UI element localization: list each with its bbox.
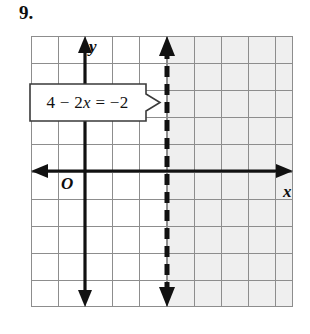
equation-callout: 4 − 2x = −2: [29, 83, 165, 122]
problem-number: 9.: [19, 2, 33, 24]
origin-label: O: [61, 174, 73, 194]
equation-tail: = −2: [91, 93, 129, 113]
equation-variable: x: [83, 93, 91, 113]
equation-label: 4 − 2x = −2: [29, 83, 146, 122]
axes-layer: [31, 36, 293, 307]
y-axis-label: y: [89, 37, 97, 57]
x-axis-label: x: [283, 182, 292, 202]
coordinate-graph: y x O: [31, 36, 293, 307]
equation-lead: 4 − 2: [46, 93, 83, 113]
